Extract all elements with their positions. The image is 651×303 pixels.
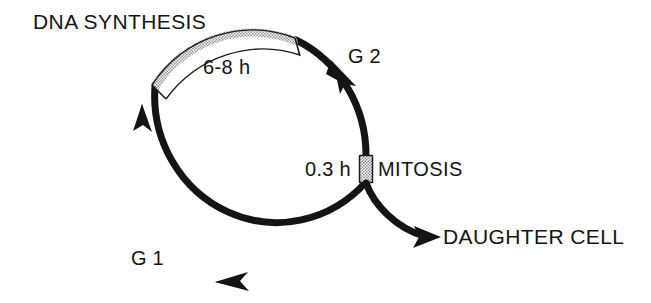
label-mitosis-duration: 0.3 h (305, 159, 351, 179)
mitosis-segment (360, 156, 373, 183)
g1-bottom-arrowhead (215, 272, 249, 291)
daughter-cell-branch (366, 183, 441, 248)
cycle-canvas (0, 0, 651, 303)
label-daughter-cell: DAUGHTER CELL (443, 226, 624, 247)
s-entry-arrowhead (133, 104, 152, 132)
cell-cycle-diagram: DNA SYNTHESIS 6-8 h G 2 0.3 h MITOSIS G … (0, 0, 651, 303)
label-g2-phase: G 2 (348, 46, 381, 66)
label-s-phase-duration: 6-8 h (203, 57, 251, 77)
label-dna-synthesis: DNA SYNTHESIS (33, 11, 206, 32)
label-mitosis: MITOSIS (378, 159, 463, 179)
label-g1-phase: G 1 (131, 248, 164, 268)
g1-arc-path (155, 86, 366, 223)
